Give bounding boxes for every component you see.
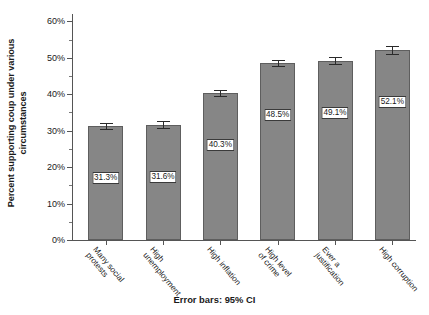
x-tick [335, 241, 336, 245]
x-tick [392, 241, 393, 245]
bar-value-label: 48.5% [264, 109, 291, 121]
y-tick-40% [67, 94, 72, 95]
bar [203, 93, 238, 240]
y-tick-50% [67, 58, 72, 59]
y-tick-label: 10% [47, 199, 65, 209]
x-tick [278, 241, 279, 245]
y-tick-minor [69, 76, 72, 77]
plot-area: 0%10%20%30%40%50%60% 31.3%31.6%40.3%48.5… [72, 14, 416, 240]
error-bar-cap-lower [386, 54, 399, 55]
y-tick-minor [69, 149, 72, 150]
bar-value-label: 31.3% [92, 172, 119, 184]
error-bar [335, 57, 336, 64]
x-axis-label: Many socialprotests [83, 245, 125, 290]
x-axis-label-line1: High corruption [377, 245, 420, 294]
bar-value-label: 49.1% [321, 107, 348, 119]
y-tick-label: 50% [47, 53, 65, 63]
bar [318, 61, 353, 240]
y-tick-10% [67, 204, 72, 205]
error-bar-cap-upper [157, 121, 170, 122]
y-tick-minor [69, 185, 72, 186]
error-bar-cap-upper [214, 90, 227, 91]
error-bar [278, 60, 279, 67]
error-bar-cap-lower [272, 66, 285, 67]
y-tick-20% [67, 167, 72, 168]
bar-value-label: 40.3% [207, 139, 234, 151]
x-tick [163, 241, 164, 245]
y-tick-minor [69, 222, 72, 223]
bar-chart: Percent supporting coup under various ci… [0, 0, 429, 315]
y-tick-label: 0% [52, 235, 65, 245]
error-bar-cap-upper [100, 123, 113, 124]
y-tick-30% [67, 131, 72, 132]
y-axis-title: Percent supporting coup under various ci… [0, 0, 34, 246]
error-bar-cap-upper [272, 60, 285, 61]
x-axis-label: Highunemployment [141, 245, 190, 298]
y-tick-0% [67, 240, 72, 241]
y-tick-label: 40% [47, 89, 65, 99]
x-axis-label-line1: High inflation [205, 245, 243, 287]
y-tick-label: 20% [47, 162, 65, 172]
error-bar-cap-lower [329, 64, 342, 65]
x-axis-label: High levelof crime [255, 245, 292, 284]
error-bar-cap-upper [386, 46, 399, 47]
y-tick-60% [67, 21, 72, 22]
y-axis-title-line2: circumstances [17, 39, 29, 207]
error-bar-cap-lower [157, 128, 170, 129]
x-tick [220, 241, 221, 245]
bar-value-label: 31.6% [149, 171, 176, 183]
error-bar-cap-lower [214, 96, 227, 97]
error-bar [163, 121, 164, 128]
error-bar-caption: Error bars: 95% CI [0, 294, 429, 305]
x-axis-label: High inflation [205, 245, 243, 287]
error-bar-cap-lower [100, 129, 113, 130]
x-tick [106, 241, 107, 245]
y-tick-label: 30% [47, 126, 65, 136]
y-tick-minor [69, 40, 72, 41]
x-axis-line [72, 240, 416, 241]
error-bar-cap-upper [329, 57, 342, 58]
y-tick-label: 60% [47, 16, 65, 26]
error-bar [392, 46, 393, 53]
x-axis-label: High corruption [377, 245, 420, 294]
y-tick-minor [69, 112, 72, 113]
bar-value-label: 52.1% [379, 96, 406, 108]
bar [375, 50, 410, 240]
y-axis-line [72, 14, 73, 240]
x-axis-label: Ever ajustification [313, 245, 353, 288]
bar [260, 63, 295, 240]
y-axis-title-line1: Percent supporting coup under various [6, 39, 16, 207]
